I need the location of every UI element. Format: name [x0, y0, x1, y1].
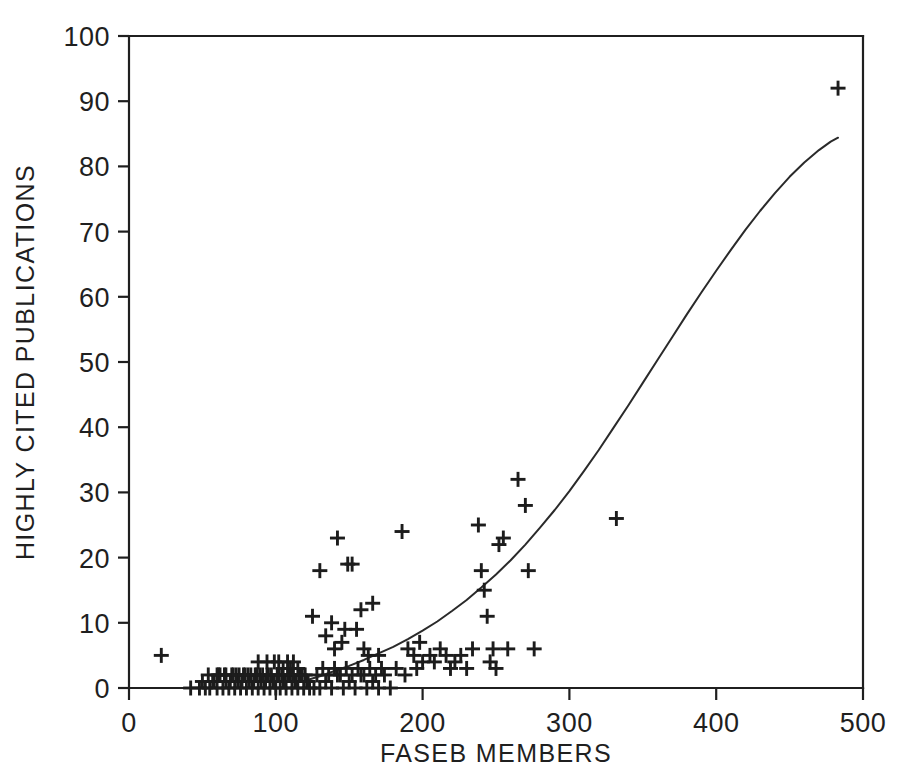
fit-curve-path: [302, 138, 838, 682]
data-point: [154, 648, 169, 663]
data-point: [305, 609, 320, 624]
y-tick-labels: 0102030405060708090100: [63, 22, 110, 704]
data-point: [349, 622, 364, 637]
data-point: [831, 81, 846, 96]
x-tick-label: 500: [840, 708, 887, 738]
data-point: [521, 563, 536, 578]
data-point: [609, 511, 624, 526]
data-point: [486, 641, 501, 656]
y-tick-label: 0: [94, 674, 110, 704]
y-tick-label: 70: [79, 218, 110, 248]
data-point: [324, 615, 339, 630]
plot-axes: [129, 36, 863, 688]
data-point: [383, 681, 398, 696]
y-tick-label: 30: [79, 478, 110, 508]
data-point: [518, 498, 533, 513]
x-tick-label: 200: [399, 708, 446, 738]
x-tick-labels: 0100200300400500: [121, 708, 886, 738]
data-point: [312, 563, 327, 578]
data-point: [527, 641, 542, 656]
data-point: [395, 524, 410, 539]
y-tick-label: 40: [79, 413, 110, 443]
y-tick-label: 100: [63, 22, 110, 52]
data-point: [477, 583, 492, 598]
data-point: [511, 472, 526, 487]
data-point: [471, 518, 486, 533]
axis-ticks: [118, 36, 863, 700]
data-point: [330, 531, 345, 546]
figure-container: 0100200300400500 0102030405060708090100 …: [0, 0, 905, 780]
x-tick-label: 300: [546, 708, 593, 738]
x-tick-label: 0: [121, 708, 137, 738]
regression-curve: [302, 138, 838, 682]
y-tick-label: 90: [79, 87, 110, 117]
data-point-markers: [154, 81, 846, 696]
scatter-plot: 0100200300400500 0102030405060708090100 …: [0, 0, 905, 780]
y-tick-label: 80: [79, 152, 110, 182]
y-tick-label: 60: [79, 283, 110, 313]
data-point: [480, 609, 495, 624]
y-axis-title: HIGHLY CITED PUBLICATIONS: [11, 164, 39, 560]
data-point: [500, 641, 515, 656]
y-tick-label: 20: [79, 544, 110, 574]
x-tick-label: 400: [693, 708, 740, 738]
y-tick-label: 50: [79, 348, 110, 378]
x-axis-title: FASEB MEMBERS: [380, 739, 612, 767]
data-point: [474, 563, 489, 578]
y-tick-label: 10: [79, 609, 110, 639]
x-tick-label: 100: [253, 708, 300, 738]
data-point: [318, 628, 333, 643]
